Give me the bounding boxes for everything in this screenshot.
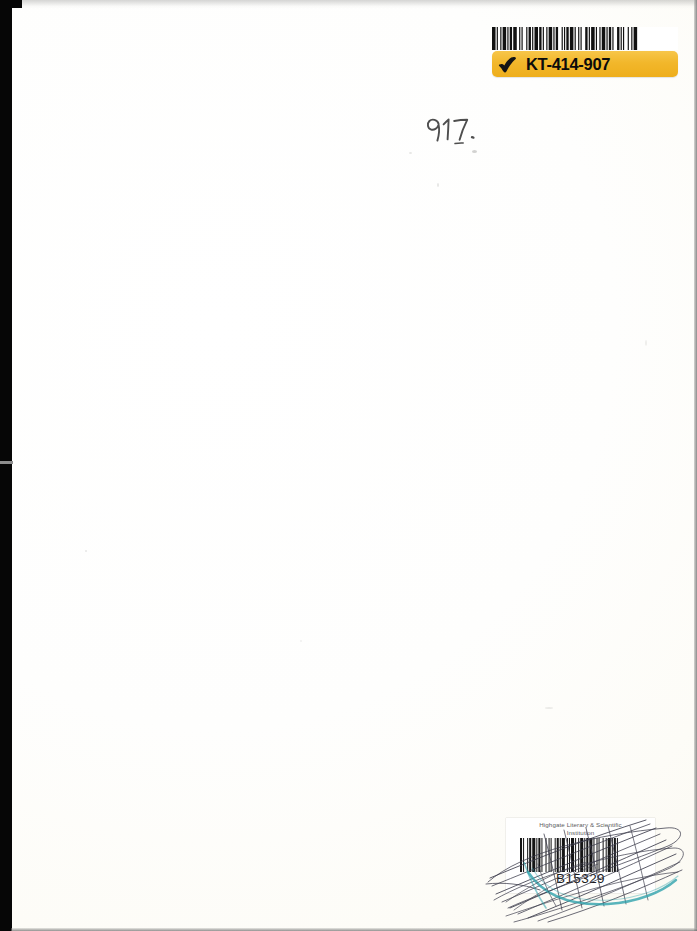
- scanner-bed-strip-top: [0, 0, 22, 8]
- library-barcode-number: B15329: [506, 871, 655, 886]
- scanned-page: KT-414-907 917. Highgate Literary & S: [0, 0, 697, 931]
- paper-speck: [85, 550, 87, 552]
- paper-speck: [300, 640, 302, 642]
- library-institution-line-2: Institution: [506, 829, 655, 837]
- acquisition-barcode: [492, 27, 678, 50]
- acquisition-code-text: KT-414-907: [520, 56, 610, 73]
- library-institution-name: Highgate Literary & Scientific Instituti…: [506, 821, 655, 837]
- scanner-bed-notch: [0, 461, 13, 464]
- library-barcode: [520, 838, 641, 872]
- top-scan-shadow: [11, 0, 697, 9]
- scanner-bed-strip: [0, 0, 12, 931]
- paper-speck: [437, 183, 439, 187]
- paper-speck: [545, 707, 553, 709]
- library-label[interactable]: Highgate Literary & Scientific Instituti…: [506, 818, 655, 893]
- paper-speck: [645, 340, 647, 346]
- shelfmark-handwritten: 917.: [424, 112, 494, 154]
- acquisition-code-band: KT-414-907: [492, 51, 678, 77]
- acquisition-label[interactable]: KT-414-907: [492, 27, 678, 77]
- paper-sheet: [11, 0, 697, 931]
- library-institution-line-1: Highgate Literary & Scientific: [506, 821, 655, 829]
- check-mark-icon: [498, 56, 517, 73]
- paper-speck: [409, 152, 412, 154]
